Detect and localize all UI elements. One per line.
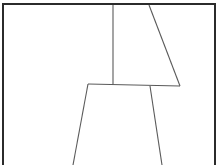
line-drawing-canvas — [0, 0, 224, 165]
drawing-panel — [0, 0, 224, 165]
panel-background — [0, 0, 224, 165]
